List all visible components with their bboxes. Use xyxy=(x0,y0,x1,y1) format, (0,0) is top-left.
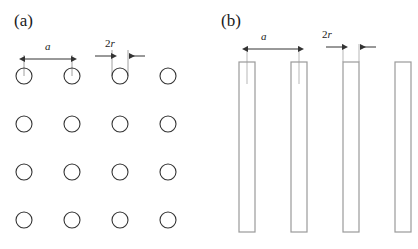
lattice-strip xyxy=(239,62,255,232)
lattice-strip xyxy=(343,62,359,232)
panel-b-strip-array xyxy=(239,62,411,232)
lattice-strip xyxy=(395,62,411,232)
lattice-circle xyxy=(112,68,128,84)
panel-b-diameter-label: 2r xyxy=(322,29,332,40)
panel-b-pitch-label: a xyxy=(261,31,267,42)
lattice-circle xyxy=(160,116,176,132)
lattice-strip xyxy=(291,62,307,232)
lattice-circle xyxy=(112,212,128,228)
lattice-circle xyxy=(160,68,176,84)
panel-a: (a) a 2r xyxy=(0,0,209,249)
panel-b: (b) a 2r xyxy=(209,0,418,249)
lattice-circle xyxy=(112,116,128,132)
panel-a-diameter-label: 2r xyxy=(105,38,115,49)
lattice-circle xyxy=(64,164,80,180)
lattice-circle xyxy=(64,212,80,228)
lattice-circle xyxy=(160,212,176,228)
panel-a-diameter-symbol: r xyxy=(111,37,115,49)
panel-b-extension-lines xyxy=(247,44,359,84)
panel-a-pitch-label: a xyxy=(45,41,51,52)
lattice-circle xyxy=(64,116,80,132)
panel-b-diameter-symbol: r xyxy=(328,28,332,40)
lattice-circle xyxy=(16,116,32,132)
panel-b-graphic xyxy=(209,0,418,249)
lattice-circle xyxy=(16,212,32,228)
panel-a-label: (a) xyxy=(14,12,33,29)
lattice-circle xyxy=(112,164,128,180)
lattice-circle xyxy=(16,164,32,180)
panel-b-label: (b) xyxy=(221,12,241,29)
lattice-circle xyxy=(160,164,176,180)
panel-a-circle-lattice xyxy=(16,68,176,228)
figure-root: (a) a 2r xyxy=(0,0,418,249)
